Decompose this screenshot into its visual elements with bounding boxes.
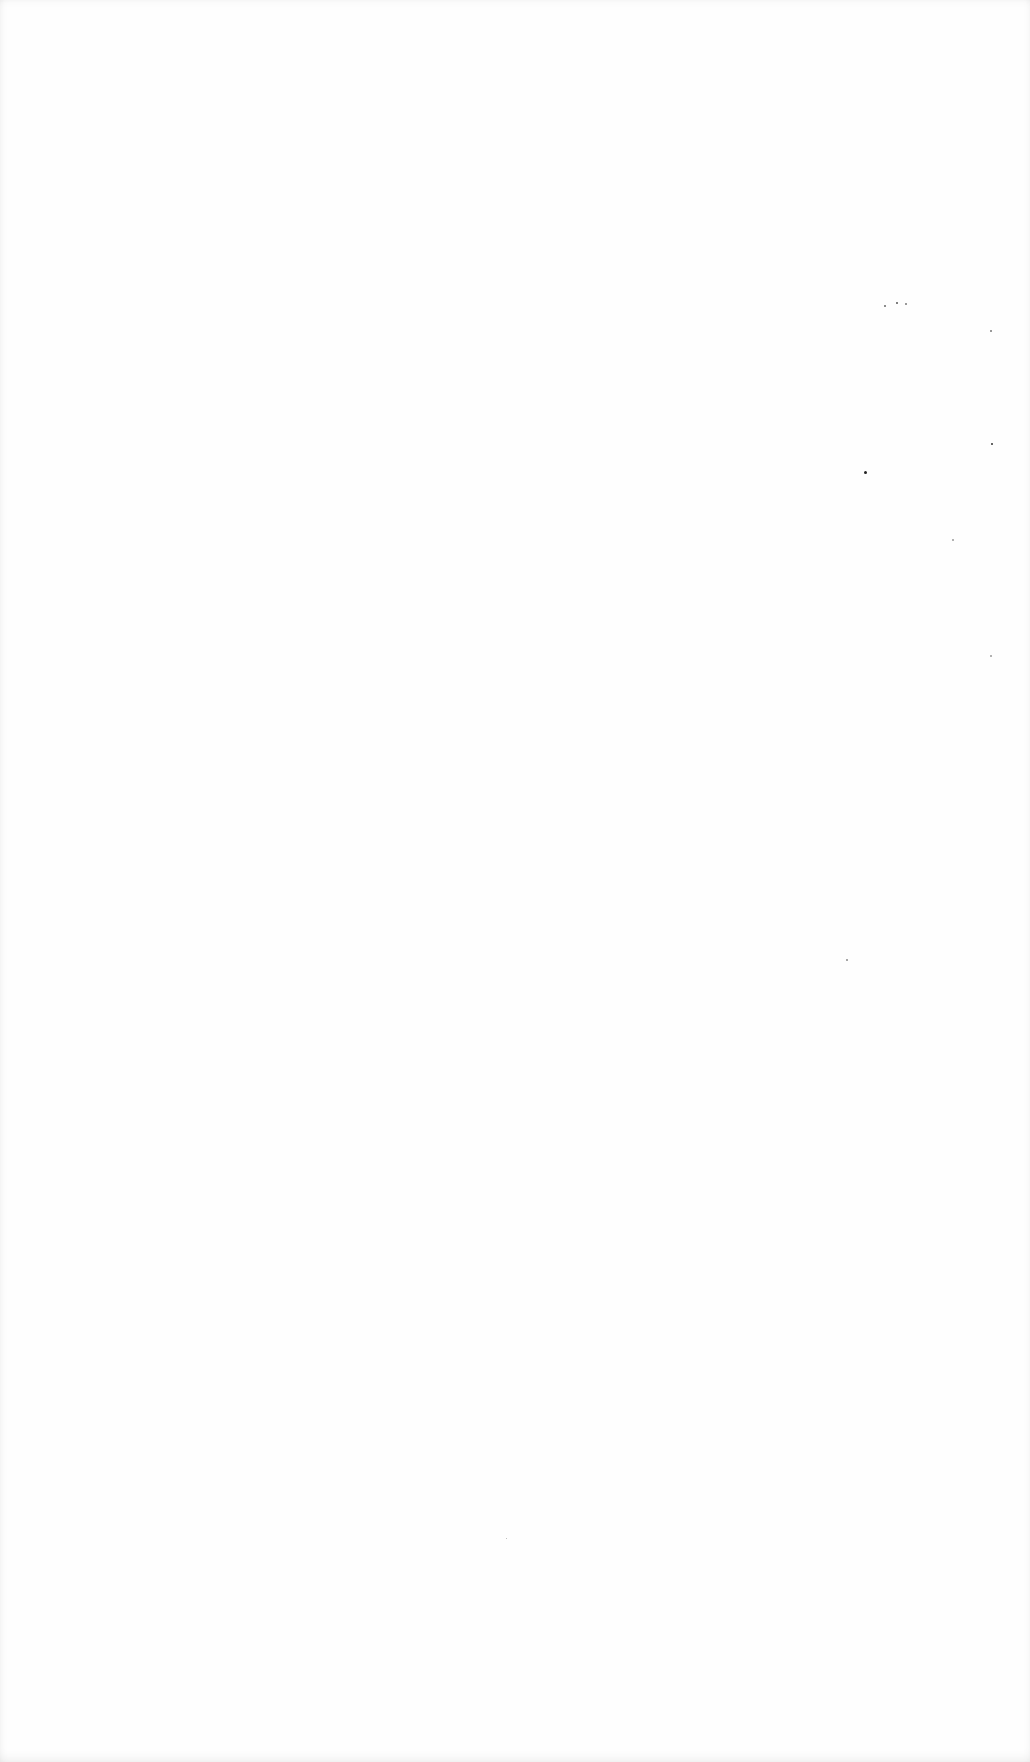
scan-speck xyxy=(846,959,848,961)
scan-speck xyxy=(905,303,907,305)
scan-speck xyxy=(990,655,992,657)
scan-speck xyxy=(952,539,954,541)
scan-speck xyxy=(864,471,867,474)
scan-speck xyxy=(896,302,898,304)
blank-page xyxy=(0,0,1030,1762)
scan-speck xyxy=(991,443,993,445)
scan-speck xyxy=(506,1538,507,1539)
scan-speck xyxy=(884,305,886,307)
scan-speck xyxy=(990,330,992,332)
